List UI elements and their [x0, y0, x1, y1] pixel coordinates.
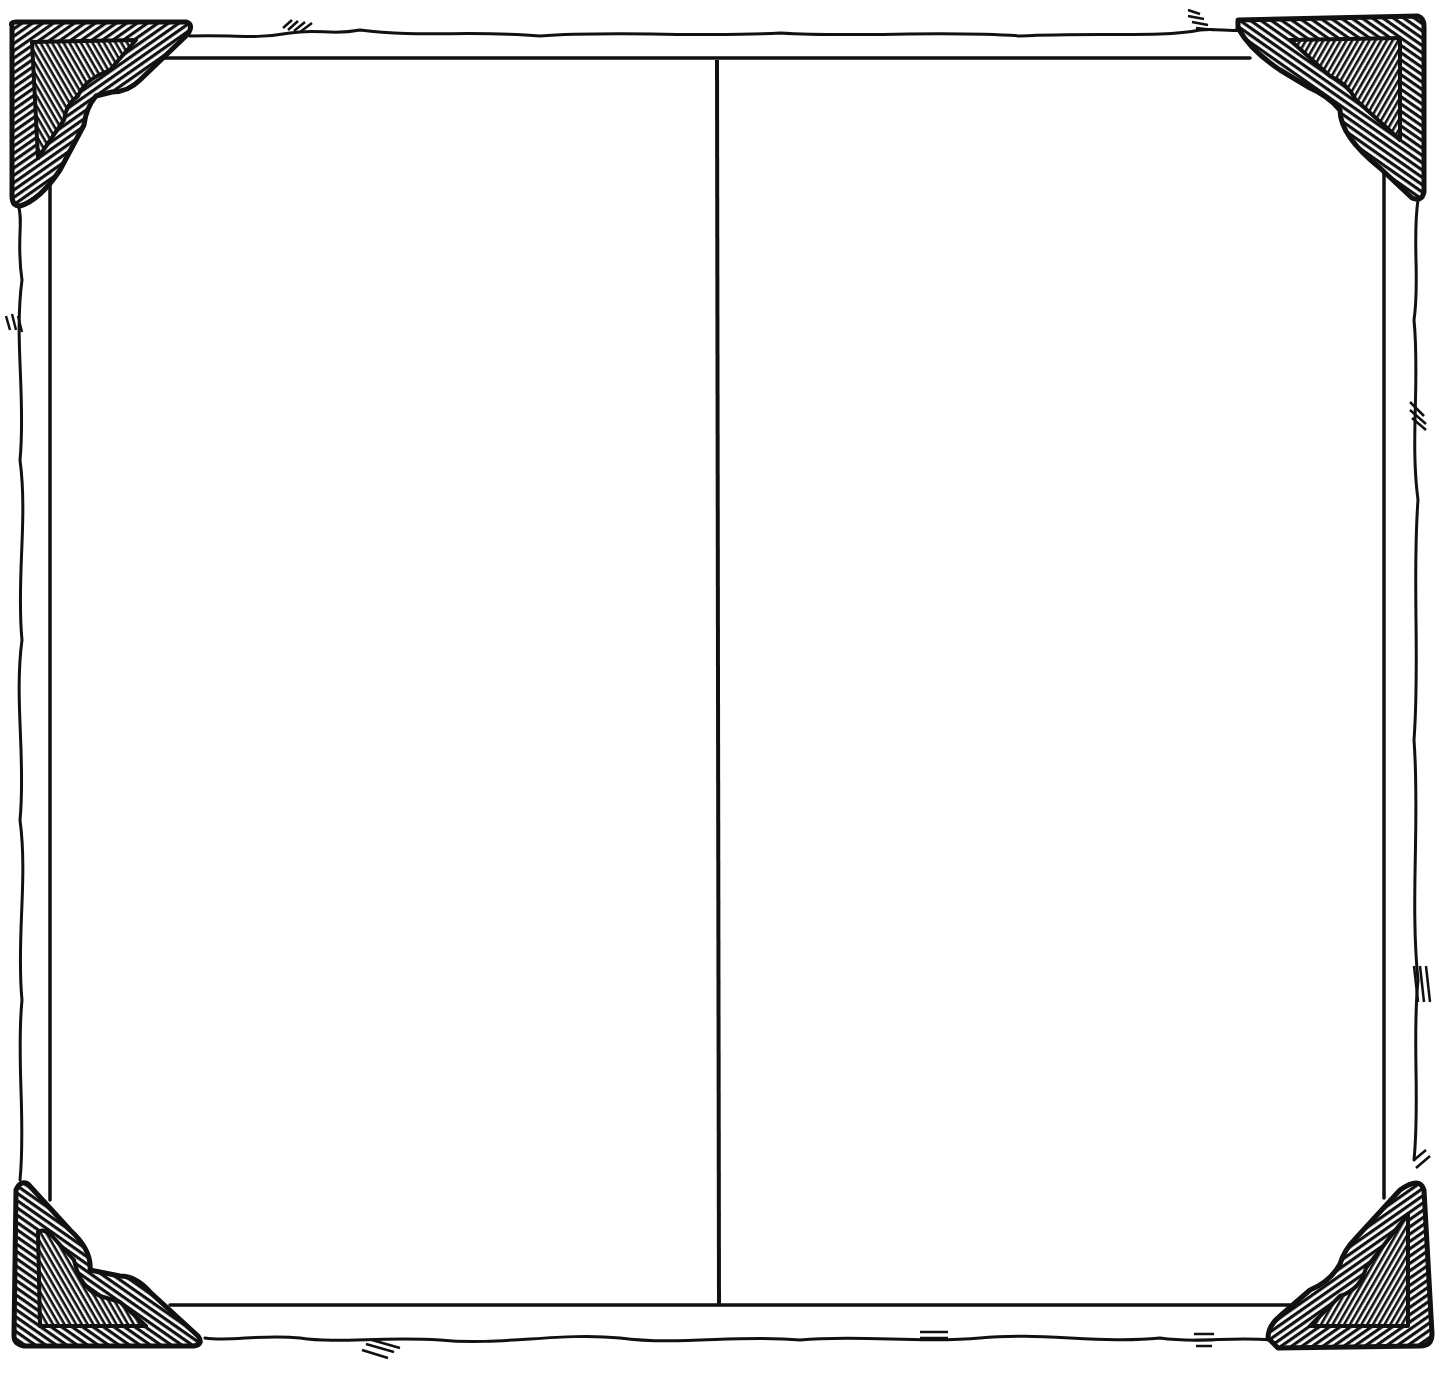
center-divider [717, 60, 719, 1305]
photo-album-frame [0, 0, 1449, 1376]
corner-mount-top-left [12, 22, 191, 206]
corner-mount-top-right [1238, 16, 1424, 199]
right-panel [720, 60, 1382, 1303]
left-panel [52, 60, 716, 1303]
corner-mount-bottom-right [1268, 1183, 1432, 1348]
corner-mount-bottom-left [14, 1183, 200, 1346]
